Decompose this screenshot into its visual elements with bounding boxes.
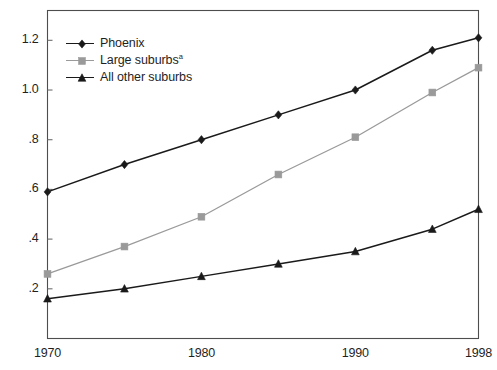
data-point-0-2 — [198, 136, 205, 144]
legend-item-0: Phoenix — [66, 36, 192, 51]
legend-marker-triangle-icon — [77, 73, 87, 83]
data-point-0-5 — [429, 46, 436, 54]
data-point-1-0 — [44, 270, 51, 277]
legend-label-0: Phoenix — [100, 37, 144, 50]
y-tick-label-4: 1.0 — [22, 82, 39, 96]
series-line-1 — [48, 68, 479, 274]
axis-ticks — [48, 40, 53, 288]
legend-label-superscript: a — [179, 52, 183, 61]
legend-marker-diamond-icon — [77, 39, 87, 49]
legend-swatch-diamond-icon — [66, 37, 94, 50]
legend-label-1: Large suburbsa — [100, 54, 183, 67]
x-tick-label-1: 1980 — [171, 346, 231, 360]
data-point-1-6 — [475, 64, 482, 71]
series-line-2 — [48, 209, 479, 298]
data-point-2-6 — [475, 205, 483, 212]
x-tick-label-0: 1970 — [18, 346, 78, 360]
legend-swatch-square-icon — [66, 54, 94, 67]
legend-label-2: All other suburbs — [100, 71, 192, 84]
data-point-1-1 — [121, 243, 128, 250]
y-tick-label-3: .8 — [28, 132, 38, 146]
x-tick-label-3: 1998 — [449, 346, 497, 360]
x-tick-label-2: 1990 — [325, 346, 385, 360]
legend-marker-square-icon — [77, 56, 87, 66]
data-point-1-4 — [352, 134, 359, 141]
legend-item-2: All other suburbs — [66, 70, 192, 85]
y-tick-label-1: .4 — [28, 231, 38, 245]
data-point-1-3 — [275, 171, 282, 178]
data-point-0-3 — [275, 111, 282, 119]
legend-swatch-triangle-icon — [66, 71, 94, 84]
y-tick-label-5: 1.2 — [22, 32, 39, 46]
data-point-0-1 — [121, 160, 128, 168]
chart-legend: PhoenixLarge suburbsaAll other suburbs — [66, 36, 192, 87]
data-point-0-6 — [475, 34, 482, 42]
data-point-1-5 — [429, 89, 436, 96]
data-point-0-4 — [352, 86, 359, 94]
data-point-1-2 — [198, 213, 205, 220]
y-tick-label-2: .6 — [28, 181, 38, 195]
legend-item-1: Large suburbsa — [66, 53, 192, 68]
y-tick-label-0: .2 — [28, 281, 38, 295]
